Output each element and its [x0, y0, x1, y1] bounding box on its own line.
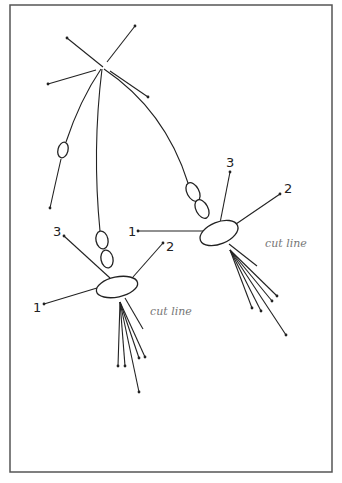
top-pole-aster: [47, 25, 150, 99]
left-chromatid-branch: [49, 69, 101, 209]
label-1: 1: [33, 300, 41, 315]
label-3: 3: [226, 155, 234, 170]
cut-line-label: cut line: [150, 305, 192, 318]
chromatid-ellipse: [56, 141, 70, 159]
spindle-pole-ellipse: [196, 215, 241, 250]
spindle-pole-ellipse: [94, 273, 139, 301]
left-spindle: 1 2 3 cut line: [33, 224, 192, 393]
spindle-diagram: 1 2 3 cut line 1 2 3 cut line: [0, 0, 342, 483]
chromosome-lobe-lower: [99, 249, 114, 269]
label-2: 2: [166, 239, 174, 254]
middle-chromosome-branch: [94, 69, 114, 269]
label-3: 3: [53, 224, 61, 239]
astral-fan: [117, 302, 147, 393]
right-chromosome-branch: [104, 69, 212, 221]
label-2: 2: [284, 181, 292, 196]
label-1: 1: [128, 224, 136, 239]
astral-fan: [230, 250, 287, 336]
chromosome-lobe-upper: [94, 230, 109, 250]
cut-line-label: cut line: [265, 237, 307, 250]
